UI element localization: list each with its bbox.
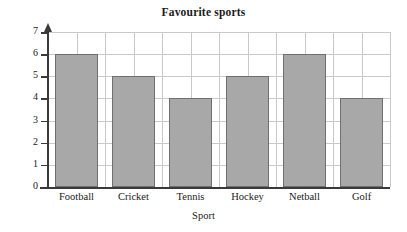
grid-line-vertical <box>390 32 391 187</box>
y-tick-mark <box>41 76 48 78</box>
bars-group <box>48 32 390 187</box>
plot-area <box>48 32 390 187</box>
x-axis-tick-labels: FootballCricketTennisHockeyNetballGolf <box>48 190 390 208</box>
y-axis-arrow-icon <box>44 23 52 32</box>
y-tick-mark <box>41 143 48 145</box>
bar-chart: Favourite sports Frequency Sport 0123456… <box>0 0 407 232</box>
x-tick-label-hockey: Hockey <box>219 190 276 204</box>
chart-title: Favourite sports <box>0 6 407 18</box>
bar-cricket <box>112 76 154 187</box>
x-axis-title: Sport <box>0 210 407 221</box>
bar-tennis <box>169 98 211 187</box>
y-tick-mark <box>41 32 48 34</box>
x-tick-label-tennis: Tennis <box>162 190 219 204</box>
x-tick-label-golf: Golf <box>333 190 390 204</box>
bar-netball <box>283 54 325 187</box>
x-tick-label-football: Football <box>48 190 105 204</box>
bar-football <box>55 54 97 187</box>
bar-hockey <box>226 76 268 187</box>
x-tick-label-cricket: Cricket <box>105 190 162 204</box>
y-tick-label: 2 <box>14 137 38 147</box>
y-tick-label: 6 <box>14 48 38 58</box>
y-tick-label: 0 <box>14 181 38 191</box>
y-tick-mark <box>41 187 48 189</box>
bar-golf <box>340 98 382 187</box>
y-tick-mark <box>41 165 48 167</box>
y-tick-mark <box>41 98 48 100</box>
x-tick-label-netball: Netball <box>276 190 333 204</box>
y-tick-label: 3 <box>14 115 38 125</box>
y-tick-mark <box>41 54 48 56</box>
y-tick-label: 7 <box>14 26 38 36</box>
y-tick-label: 4 <box>14 92 38 102</box>
y-tick-label: 5 <box>14 70 38 80</box>
y-tick-mark <box>41 121 48 123</box>
y-tick-label: 1 <box>14 159 38 169</box>
x-axis-line <box>40 187 390 189</box>
